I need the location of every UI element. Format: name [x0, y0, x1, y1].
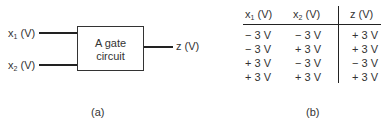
input-x1-wire [39, 32, 77, 34]
cell-x2: − 3 V [295, 29, 321, 41]
header-z: z (V) [350, 8, 373, 20]
output-divider [338, 6, 339, 83]
output-z-label: z (V) [176, 40, 199, 52]
cell-x1: + 3 V [245, 57, 271, 69]
input-x2-label: x2 (V) [8, 59, 35, 72]
header-rule [243, 24, 381, 25]
cell-x1: − 3 V [245, 43, 271, 55]
block-label-line1: A gate [78, 37, 143, 50]
gate-circuit-block: A gate circuit [77, 26, 144, 71]
cell-x2: + 3 V [295, 71, 321, 83]
cell-x1: + 3 V [245, 71, 271, 83]
cell-x2: + 3 V [295, 43, 321, 55]
header-x1: x1 (V) [245, 8, 272, 21]
header-x2: x2 (V) [293, 8, 320, 21]
cell-z: − 3 V [352, 57, 378, 69]
block-label-line2: circuit [78, 50, 143, 63]
cell-x1: − 3 V [245, 29, 271, 41]
caption-b: (b) [306, 106, 319, 118]
input-x2-wire [39, 64, 77, 66]
cell-x2: − 3 V [295, 57, 321, 69]
cell-z: + 3 V [352, 71, 378, 83]
cell-z: + 3 V [352, 29, 378, 41]
cell-z: + 3 V [352, 43, 378, 55]
output-z-wire [144, 46, 173, 48]
caption-a: (a) [91, 106, 104, 118]
input-x1-label: x1 (V) [8, 27, 35, 40]
